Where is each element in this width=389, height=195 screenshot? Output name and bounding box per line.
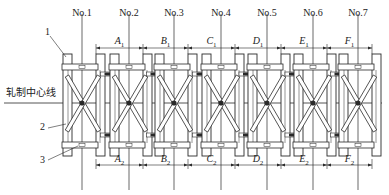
top-roll-chock: [264, 66, 270, 69]
stand-label: No.5: [257, 8, 277, 18]
top-dimension-label: B1: [161, 36, 171, 49]
bottom-dimension-label: E2: [299, 154, 309, 167]
arrow-head: [235, 164, 239, 167]
arrow-head: [184, 164, 188, 167]
top-roll-chock: [355, 66, 361, 69]
bottom-roll-chock: [355, 144, 361, 147]
stand-label: No.2: [119, 8, 139, 18]
bottom-dimension-label: D2: [253, 154, 264, 167]
arrow-head: [323, 47, 327, 50]
stand-layout-diagram: 轧制中心线 1 2 3 A1A2B1B2C1C2D1D2E1E2F1F2No.1…: [0, 0, 389, 195]
callout-2: 2: [40, 122, 45, 132]
roll-center-hub: [310, 100, 315, 105]
bottom-dimension-label: A2: [115, 154, 125, 167]
top-roll-chock: [79, 66, 85, 69]
roll-center-hub: [218, 100, 223, 105]
arrow-head: [143, 47, 147, 50]
arrow-head: [139, 164, 143, 167]
arrow-head: [96, 164, 100, 167]
arrow-head: [188, 164, 192, 167]
arrow-head: [368, 47, 372, 50]
bottom-dimension-label: C2: [206, 154, 216, 167]
bottom-roll-chock: [218, 144, 224, 147]
bottom-roll-chock: [79, 144, 85, 147]
roll-center-hub: [126, 100, 131, 105]
top-roll-chock: [310, 66, 316, 69]
arrow-head: [327, 47, 331, 50]
top-roll-chock: [218, 66, 224, 69]
arrow-head: [368, 164, 372, 167]
arrow-head: [277, 47, 281, 50]
arrow-head: [323, 164, 327, 167]
bottom-roll-chock: [126, 144, 132, 147]
top-dimension-label: E1: [299, 36, 309, 49]
top-dimension-label: D1: [253, 36, 264, 49]
arrow-head: [235, 47, 239, 50]
top-dimension-label: C1: [206, 36, 216, 49]
callout-1-leader: [50, 36, 66, 57]
top-roll-chock: [126, 66, 132, 69]
arrow-head: [184, 47, 188, 50]
arrow-head: [281, 47, 285, 50]
roll-center-hub: [79, 100, 84, 105]
arrow-head: [143, 164, 147, 167]
stand-label: No.3: [164, 8, 184, 18]
bottom-dimension-label: B2: [161, 154, 171, 167]
stand-label: No.4: [211, 8, 231, 18]
top-roll-chock: [171, 66, 177, 69]
stand-label: No.6: [303, 8, 323, 18]
bottom-dimension-label: F2: [345, 154, 355, 167]
arrow-head: [231, 164, 235, 167]
roll-center-hub: [355, 100, 360, 105]
arrow-head: [188, 47, 192, 50]
arrow-head: [277, 164, 281, 167]
arrow-head: [231, 47, 235, 50]
bottom-roll-chock: [310, 144, 316, 147]
stand-label: No.7: [348, 8, 368, 18]
arrow-head: [281, 164, 285, 167]
arrow-head: [327, 164, 331, 167]
callout-3: 3: [40, 155, 45, 165]
callout-1: 1: [45, 27, 50, 37]
roll-center-hub: [171, 100, 176, 105]
bottom-roll-chock: [264, 144, 270, 147]
bottom-roll-chock: [171, 144, 177, 147]
drawing-canvas: [0, 0, 389, 195]
centerline-label: 轧制中心线: [6, 88, 56, 98]
roll-center-hub: [264, 100, 269, 105]
stand-label: No.1: [72, 8, 92, 18]
top-dimension-label: A1: [115, 36, 125, 49]
top-dimension-label: F1: [345, 36, 355, 49]
arrow-head: [96, 47, 100, 50]
arrow-head: [139, 47, 143, 50]
